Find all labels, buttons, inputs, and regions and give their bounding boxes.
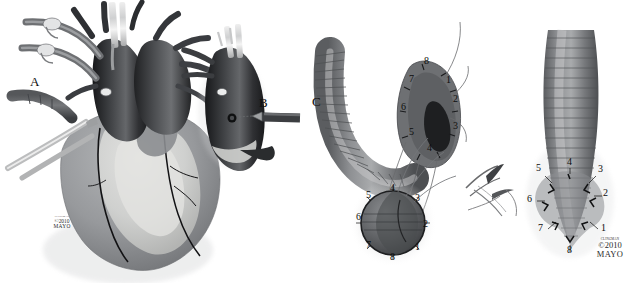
suture-label-xs-2: 2 — [423, 219, 428, 229]
suture-label-d-4: 4 — [567, 157, 572, 167]
suture-label-xs-4: 4 — [390, 183, 395, 193]
suture-label-xs-3: 3 — [415, 193, 420, 203]
arch-branch-4 — [156, 14, 178, 38]
suture-label-c-1: 1 — [446, 75, 451, 85]
suture-label-xs-7: 7 — [366, 240, 371, 250]
suture-label-c-4: 4 — [427, 143, 432, 153]
cannula-clamp-1 — [43, 18, 61, 38]
arch-branch-2 — [104, 4, 106, 30]
panel-a-artwork — [8, 2, 220, 283]
panel-letter-a: A — [30, 75, 39, 88]
figure-canvas: A B C 8 7 1 6 2 5 3 4 4 5 3 6 2 7 1 8 4 … — [0, 0, 640, 283]
suture-label-d-3: 3 — [598, 164, 603, 174]
suture-label-xs-5: 5 — [366, 190, 371, 200]
suture-label-c-5: 5 — [409, 127, 414, 137]
instrument-handle-highlight-b — [264, 114, 300, 115]
ostium-lumen-b — [230, 116, 234, 120]
suture-label-c-7: 7 — [409, 74, 414, 84]
panel-letter-b: B — [259, 96, 268, 109]
suture-label-xs-1: 1 — [415, 242, 420, 252]
suture-label-c-6: 6 — [401, 102, 406, 112]
cannula-shaft — [112, 44, 113, 70]
suture-label-xs-6: 6 — [356, 212, 361, 222]
suture-label-c-2: 2 — [453, 94, 458, 104]
surgical-needles — [466, 164, 517, 216]
copyright-mark-panel-a: CLINGMAN ©2010 MAYO — [50, 216, 74, 230]
arch-branch-3 — [132, 2, 142, 28]
suture-label-d-1: 1 — [601, 223, 606, 233]
panel-d-artwork — [474, 30, 614, 258]
venous-vessel — [12, 95, 72, 118]
suture-label-c-8: 8 — [424, 56, 429, 66]
cannula-clamp-2 — [37, 44, 55, 63]
vessel-left — [68, 86, 96, 98]
suture-label-d-6: 6 — [527, 194, 532, 204]
cardioplegia-needle — [119, 2, 127, 46]
coronary-ostium-button — [101, 88, 112, 96]
suture-label-d-2: 2 — [603, 188, 608, 198]
suture-label-c-3: 3 — [453, 121, 458, 131]
suture-label-d-8: 8 — [567, 245, 572, 255]
branch-b-1 — [184, 50, 212, 62]
ostium-b — [217, 88, 227, 95]
arch-branch-5 — [176, 38, 208, 48]
illustration-artwork — [0, 0, 640, 283]
copyright-org-d: MAYO — [588, 250, 632, 259]
suture-label-d-5: 5 — [536, 163, 541, 173]
branch-b-2 — [184, 75, 212, 77]
suture-label-xs-8: 8 — [390, 252, 395, 262]
panel-letter-c: C — [312, 95, 321, 108]
copyright-org-a: MAYO — [50, 224, 74, 230]
instrument-handle-b — [262, 117, 300, 118]
panel-c-artwork — [315, 22, 517, 267]
suture-label-d-7: 7 — [538, 223, 543, 233]
copyright-mark-panel-d: CLINGMAN ©2010 MAYO — [588, 238, 632, 259]
